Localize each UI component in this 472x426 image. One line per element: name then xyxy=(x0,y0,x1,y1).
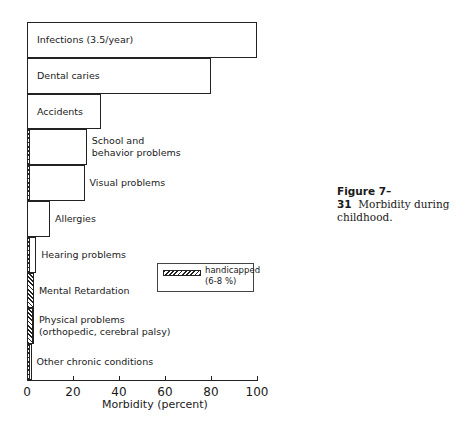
legend: handicapped (6-8 %) xyxy=(157,263,254,292)
bar-label: School and behavior problems xyxy=(92,135,181,159)
x-tick-label: 80 xyxy=(203,385,218,399)
x-tick xyxy=(211,376,212,381)
x-axis xyxy=(27,380,257,381)
x-tick xyxy=(257,376,258,381)
legend-swatch-hatched xyxy=(163,270,201,276)
bar-5 xyxy=(27,201,50,237)
x-tick xyxy=(119,376,120,381)
bar-label: Visual problems xyxy=(90,177,166,189)
caption-text: Morbidity during childhood. xyxy=(337,198,449,223)
x-tick-label: 60 xyxy=(157,385,172,399)
x-tick-label: 0 xyxy=(23,385,31,399)
bar-4 xyxy=(27,165,85,201)
bar-label: Mental Retardation xyxy=(39,285,130,297)
bar-label: Physical problems (orthopedic, cerebral … xyxy=(39,314,171,338)
x-tick-label: 40 xyxy=(111,385,126,399)
x-axis-label: Morbidity (percent) xyxy=(102,398,208,411)
legend-label: handicapped (6-8 %) xyxy=(205,265,260,287)
x-tick-label: 20 xyxy=(65,385,80,399)
y-axis xyxy=(27,22,28,380)
bar-label: Infections (3.5/year) xyxy=(37,34,133,46)
bar-3 xyxy=(27,129,87,165)
bar-label: Hearing problems xyxy=(41,249,126,261)
figure-caption: Figure 7–31 Morbidity during childhood. xyxy=(337,185,472,224)
x-tick xyxy=(165,376,166,381)
x-tick xyxy=(27,376,28,381)
bar-label: Dental caries xyxy=(37,70,100,82)
bar-label: Other chronic conditions xyxy=(37,356,154,368)
x-tick-label: 100 xyxy=(246,385,269,399)
bar-label: Allergies xyxy=(55,213,96,225)
bar-label: Accidents xyxy=(37,106,83,118)
x-tick xyxy=(73,376,74,381)
